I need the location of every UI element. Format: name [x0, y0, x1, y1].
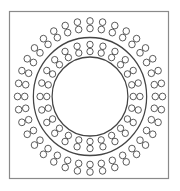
inner-ring-small-circle: [100, 143, 106, 150]
outer-ring-pair: [119, 28, 129, 41]
outer-ring-small-circle: [133, 35, 140, 42]
outer-ring-small-circle: [87, 169, 94, 176]
inner-ring-small-circle: [129, 105, 135, 112]
outer-ring-small-circle: [133, 151, 140, 158]
inner-ring-small-circle: [124, 71, 130, 78]
outer-ring-small-circle: [75, 26, 82, 33]
inner-ring-small-circle: [87, 48, 93, 55]
outer-ring-small-circle: [37, 49, 44, 56]
inner-ring-small-circle: [39, 80, 45, 87]
outer-ring-small-circle: [75, 160, 82, 167]
outer-ring-small-circle: [24, 131, 31, 138]
inner-ring-small-circle: [98, 137, 104, 144]
outer-ring-pair: [14, 93, 28, 100]
outer-ring-small-circle: [22, 105, 29, 112]
inner-ring-small-circle: [37, 93, 43, 100]
outer-ring-small-circle: [87, 161, 94, 168]
outer-ring-small-circle: [19, 67, 26, 74]
outer-ring-pair: [137, 137, 149, 149]
outer-ring-small-circle: [158, 106, 165, 113]
outer-ring-pair: [109, 157, 118, 171]
outer-ring-small-circle: [158, 80, 165, 87]
outer-ring-pair: [137, 45, 149, 57]
outer-ring-small-circle: [37, 137, 44, 144]
outer-ring-small-circle: [99, 19, 106, 26]
inner-ring-small-circle: [62, 48, 68, 55]
outer-ring-small-circle: [112, 22, 119, 29]
outer-ring-pair: [87, 18, 94, 32]
inner-ring-small-circle: [87, 145, 93, 152]
inner-ring-small-circle: [112, 138, 118, 145]
inner-ring-pairs: [37, 41, 143, 152]
outer-ring-small-circle: [45, 41, 52, 48]
inner-ring-pair: [39, 80, 52, 88]
outer-ring-small-circle: [98, 26, 105, 33]
inner-ring-small-circle: [52, 56, 58, 63]
inner-ring-small-circle: [87, 138, 93, 145]
inner-ring-small-circle: [122, 130, 128, 137]
inner-ring-small-circle: [45, 82, 51, 89]
outer-ring-small-circle: [142, 45, 149, 52]
inner-ring-pair: [130, 93, 143, 100]
outer-ring-small-circle: [129, 41, 136, 48]
outer-ring-small-circle: [22, 81, 29, 88]
outer-ring-pair: [19, 116, 32, 125]
inner-ring-small-circle: [49, 116, 55, 123]
outer-ring-small-circle: [74, 167, 81, 174]
inner-ring-pair: [74, 137, 82, 150]
inner-ring-small-circle: [44, 93, 50, 100]
inner-ring-small-circle: [76, 50, 82, 57]
outer-ring-pair: [62, 157, 71, 171]
outer-ring-small-circle: [87, 18, 94, 25]
outer-ring-small-circle: [25, 70, 32, 77]
inner-ring-small-circle: [130, 119, 136, 126]
inner-ring-small-circle: [52, 130, 58, 137]
concentric-rings-diagram: [0, 0, 180, 191]
inner-ring-pair: [124, 116, 136, 126]
outer-ring-pair: [143, 55, 156, 66]
inner-ring-small-circle: [44, 67, 50, 74]
inner-ring-pair: [98, 43, 106, 56]
inner-ring-small-circle: [45, 105, 51, 112]
outer-ring-small-circle: [40, 151, 47, 158]
outer-ring-small-circle: [155, 119, 162, 126]
inner-ring-small-circle: [130, 67, 136, 74]
inner-ring-pair: [44, 116, 56, 126]
rings-group: [14, 18, 165, 176]
outer-ring-small-circle: [15, 106, 22, 113]
outer-ring-small-circle: [64, 157, 71, 164]
inner-ring-pair: [39, 105, 52, 113]
inner-circle: [52, 57, 128, 136]
outer-ring-small-circle: [25, 116, 32, 123]
outer-ring-small-circle: [19, 119, 26, 126]
inner-ring-pair: [62, 132, 72, 145]
outer-ring-small-circle: [99, 167, 106, 174]
outer-ring-pair: [62, 22, 71, 36]
outer-ring-pair: [74, 160, 82, 174]
outer-ring-small-circle: [64, 29, 71, 36]
inner-ring-pair: [87, 138, 93, 152]
inner-ring-small-circle: [65, 132, 71, 139]
outer-ring-small-circle: [62, 164, 69, 171]
outer-ring-small-circle: [31, 142, 38, 149]
inner-ring-small-circle: [108, 132, 114, 139]
outer-ring-small-circle: [98, 160, 105, 167]
outer-ring-small-circle: [159, 93, 166, 100]
outer-ring-pair: [148, 116, 161, 125]
outer-ring-pair: [50, 152, 60, 165]
outer-ring-small-circle: [151, 81, 158, 88]
outer-ring-small-circle: [54, 34, 61, 41]
outer-ring-small-circle: [137, 49, 144, 56]
outer-ring-small-circle: [54, 152, 61, 159]
inner-ring-small-circle: [76, 137, 82, 144]
inner-ring-pair: [98, 137, 106, 150]
outer-ring-small-circle: [112, 164, 119, 171]
outer-ring-small-circle: [148, 70, 155, 77]
inner-ring-small-circle: [44, 119, 50, 126]
inner-ring-pair: [37, 93, 50, 100]
outer-ring-small-circle: [151, 105, 158, 112]
inner-ring-small-circle: [74, 143, 80, 150]
outer-ring-small-circle: [50, 158, 57, 165]
inner-ring-small-circle: [62, 138, 68, 145]
outer-ring-pair: [19, 67, 32, 76]
